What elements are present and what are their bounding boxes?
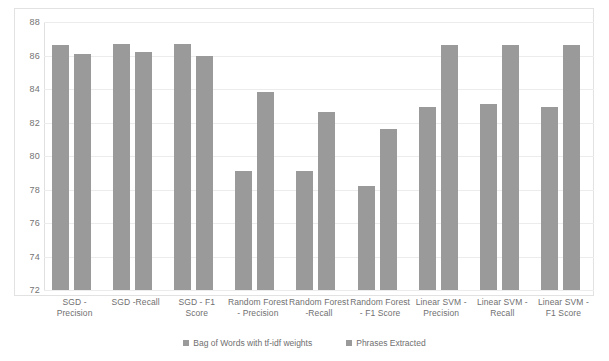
legend-label: Bag of Words with tf-idf weights bbox=[193, 338, 312, 348]
x-axis-tick-label: Random Forest -Recall bbox=[288, 297, 349, 319]
x-axis-tick-label: Linear SVM - Precision bbox=[411, 297, 472, 319]
legend-swatch-icon bbox=[346, 340, 352, 346]
bar-chart: 727476788082848688 SGD - PrecisionSGD -R… bbox=[0, 0, 609, 361]
chart-legend: Bag of Words with tf-idf weights Phrases… bbox=[0, 338, 609, 348]
legend-swatch-icon bbox=[183, 340, 189, 346]
legend-item: Phrases Extracted bbox=[346, 338, 425, 348]
x-axis-tick-label: SGD - Precision bbox=[44, 297, 105, 319]
legend-label: Phrases Extracted bbox=[356, 338, 425, 348]
x-axis-tick-label: SGD - F1 Score bbox=[166, 297, 227, 319]
x-axis-tick-label: Linear SVM - Recall bbox=[472, 297, 533, 319]
legend-item: Bag of Words with tf-idf weights bbox=[183, 338, 312, 348]
x-axis-tick-label: SGD -Recall bbox=[105, 297, 166, 308]
x-axis-tick-label: Random Forest - F1 Score bbox=[350, 297, 411, 319]
x-axis-tick-label: Linear SVM - F1 Score bbox=[533, 297, 594, 319]
x-axis-tick-label: Random Forest - Precision bbox=[227, 297, 288, 319]
plot-area-frame bbox=[14, 8, 594, 296]
